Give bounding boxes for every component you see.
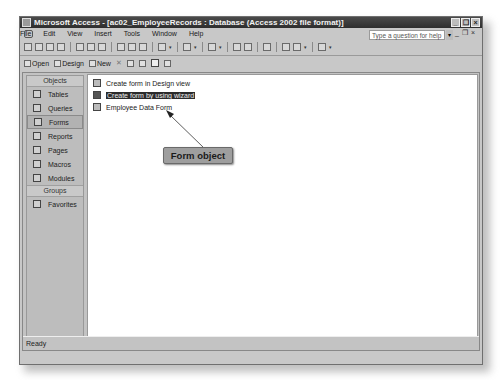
callout-arrow-icon xyxy=(0,0,503,380)
form-object-callout: Form object xyxy=(163,147,233,164)
